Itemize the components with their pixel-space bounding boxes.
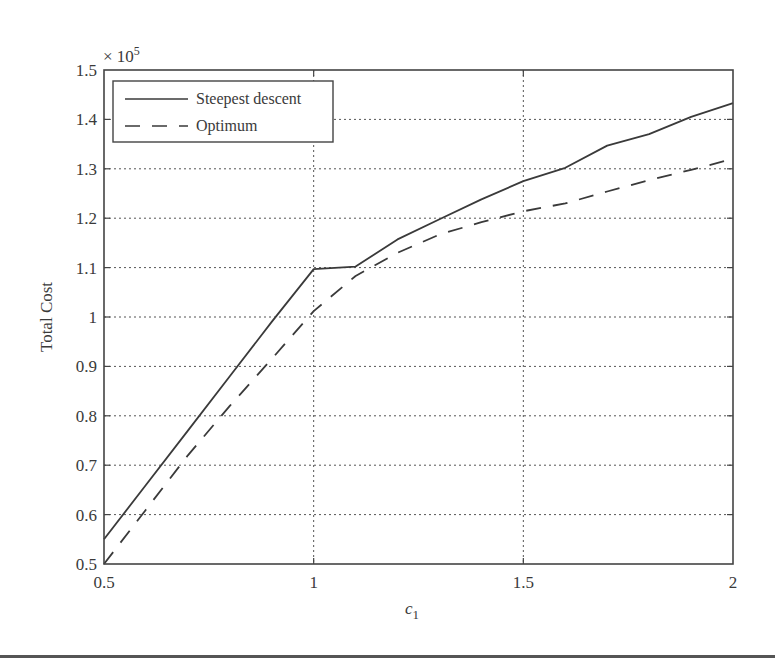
legend: Steepest descent Optimum bbox=[113, 81, 333, 142]
grid-lines bbox=[104, 70, 733, 564]
y-tick-label: 1.5 bbox=[76, 61, 97, 80]
y-tick-label: 1.4 bbox=[76, 110, 98, 129]
y-tick-label: 0.6 bbox=[76, 506, 97, 525]
plot-frame bbox=[104, 70, 733, 564]
x-axis-label: c1 bbox=[405, 599, 419, 622]
y-tick-label: 1.3 bbox=[76, 160, 97, 179]
y-axis-label: Total Cost bbox=[37, 282, 56, 352]
data-series bbox=[104, 103, 733, 564]
y-tick-label: 0.9 bbox=[76, 357, 97, 376]
legend-label-steepest: Steepest descent bbox=[196, 90, 302, 108]
legend-label-optimum: Optimum bbox=[196, 117, 258, 135]
y-tick-labels: 0.50.60.70.80.911.11.21.31.41.5 bbox=[76, 61, 98, 574]
y-multiplier: × 105 bbox=[103, 44, 140, 66]
y-tick-label: 1 bbox=[89, 308, 98, 327]
y-tick-label: 0.8 bbox=[76, 407, 97, 426]
y-tick-label: 0.5 bbox=[76, 555, 97, 574]
x-tick-label: 2 bbox=[729, 573, 738, 592]
x-tick-label: 1.5 bbox=[513, 573, 534, 592]
x-tick-labels: 0.511.52 bbox=[93, 573, 737, 592]
y-tick-label: 1.2 bbox=[76, 209, 97, 228]
series-steepest-descent-line bbox=[104, 103, 733, 539]
axis-ticks bbox=[104, 70, 733, 564]
line-chart: 0.50.60.70.80.911.11.21.31.41.5 0.511.52… bbox=[0, 0, 775, 658]
x-tick-label: 1 bbox=[309, 573, 318, 592]
y-tick-label: 1.1 bbox=[76, 259, 97, 278]
y-tick-label: 0.7 bbox=[76, 456, 98, 475]
series-optimum-line bbox=[104, 159, 733, 564]
x-tick-label: 0.5 bbox=[93, 573, 114, 592]
